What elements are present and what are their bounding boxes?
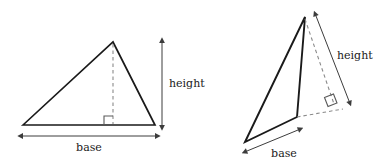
obtuse-triangle-group: base height [245,16,373,160]
obtuse-triangle-base-extension-dashed [297,109,343,117]
acute-triangle-right-angle-icon [104,116,113,125]
acute-triangle-outline [23,42,155,125]
triangles-figure: base height base height [0,0,389,167]
acute-triangle-group: base height [23,42,205,154]
diagram-canvas: base height base height [0,0,389,167]
obtuse-triangle-base-label: base [271,147,297,160]
obtuse-triangle-height-label: height [337,49,373,62]
obtuse-triangle-outline [245,17,305,142]
acute-triangle-height-label: height [169,77,205,90]
acute-triangle-base-label: base [76,141,102,154]
obtuse-triangle-altitude-dashed [305,19,334,104]
